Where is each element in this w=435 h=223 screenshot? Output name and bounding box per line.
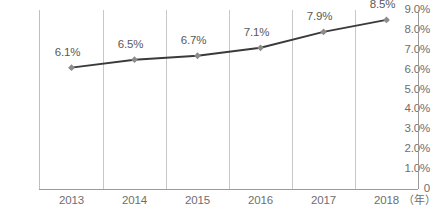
data-point-label: 7.9% [307, 10, 332, 22]
x-axis-unit-label: （年） [403, 194, 435, 206]
plot-area [40, 10, 418, 189]
data-point-label: 6.5% [118, 38, 143, 50]
x-axis-tick-label: 2016 [248, 194, 273, 206]
data-point-marker [131, 56, 138, 63]
x-axis-tick-label: 2018 [374, 194, 399, 206]
x-axis-tick-label: 2014 [122, 194, 147, 206]
data-point-marker [320, 28, 327, 35]
data-point-marker [68, 64, 75, 71]
data-point-label: 8.5% [370, 0, 395, 10]
data-point-label: 6.1% [55, 46, 80, 58]
x-axis-line [39, 189, 418, 190]
x-axis-tick-label: 2013 [59, 194, 84, 206]
gridline-vertical [418, 10, 419, 189]
x-axis-tick-label: 2017 [311, 194, 336, 206]
data-point-marker [383, 17, 390, 24]
x-axis-tick-label: 2015 [185, 194, 210, 206]
data-point-marker [194, 52, 201, 59]
data-point-marker [257, 44, 264, 51]
data-point-label: 6.7% [181, 34, 206, 46]
data-point-label: 7.1% [244, 26, 269, 38]
series-line-group [40, 10, 418, 189]
